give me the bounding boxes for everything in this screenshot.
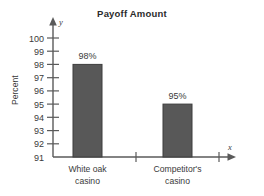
bar-value-label: 95%: [168, 91, 186, 101]
chart-container: Payoff Amount y x Percent 100 99 98 97 9…: [0, 0, 264, 196]
y-tick-label: 92: [34, 139, 44, 149]
x-category-label-line: casino: [165, 176, 190, 186]
y-axis-arrow-icon: [49, 17, 57, 26]
y-tick-label: 96: [34, 86, 44, 96]
y-tick-label: 97: [34, 73, 44, 83]
chart-plot-area: y x Percent 100 99 98 97 96 95 94 93 92 …: [0, 0, 264, 196]
y-tick-label: 100: [29, 34, 44, 44]
bar-competitors-casino[interactable]: [163, 104, 192, 157]
y-tick-label: 91: [34, 153, 44, 163]
y-tick-label: 98: [34, 60, 44, 70]
x-axis-arrow-icon: [228, 153, 237, 161]
x-axis-variable-label: x: [227, 142, 232, 152]
y-tick-label: 95: [34, 100, 44, 110]
y-axis-variable-label: y: [58, 17, 63, 27]
y-tick-label: 94: [34, 113, 44, 123]
x-category-label-line: White oak: [68, 164, 107, 174]
bar-value-label: 98%: [78, 51, 96, 61]
y-tick-label: 99: [34, 47, 44, 57]
x-category-label-line: casino: [75, 176, 100, 186]
x-category-label-line: Competitor's: [154, 164, 202, 174]
y-axis-title: Percent: [10, 75, 20, 105]
y-tick-label: 93: [34, 126, 44, 136]
bar-white-oak-casino[interactable]: [73, 64, 102, 157]
